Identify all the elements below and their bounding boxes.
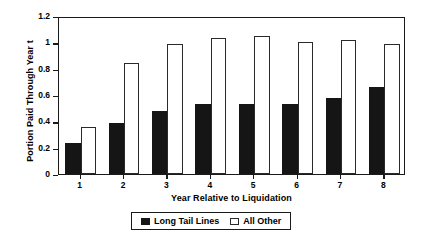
bar-long-tail-lines-year-8 [369,87,384,174]
y-axis-tick-label: 0.4 [38,116,50,126]
x-axis-tick-mark [80,175,81,179]
x-axis-tick-label-8: 8 [368,180,398,190]
x-axis-tick-label-1: 1 [65,180,95,190]
bar-long-tail-lines-year-2 [109,123,124,174]
bar-all-other-year-1 [81,127,96,174]
bar-long-tail-lines-year-6 [282,104,297,174]
y-axis-title: Portion Paid Through Year t [25,11,35,191]
legend-item-all-other: All Other [230,216,281,226]
y-axis-tick-label: 0.2 [38,143,50,153]
legend-swatch-light-icon [230,218,239,225]
legend-label-all-other: All Other [243,216,281,226]
bars-layer [59,18,404,174]
x-axis-tick-label-3: 3 [151,180,181,190]
bar-long-tail-lines-year-5 [239,104,254,174]
bar-long-tail-lines-year-1 [65,143,80,174]
bar-long-tail-lines-year-7 [326,98,341,174]
x-axis-tick-mark [297,175,298,179]
x-axis-tick-mark [383,175,384,179]
legend-swatch-dark-icon [141,218,150,225]
plot-area [58,17,405,175]
bar-long-tail-lines-year-4 [195,104,210,174]
x-axis-tick-label-5: 5 [238,180,268,190]
bar-chart-figure: Portion Paid Through Year t 00.20.40.60.… [0,0,423,238]
bar-all-other-year-4 [211,38,226,174]
x-axis-tick-mark [210,175,211,179]
chart-legend: Long Tail Lines All Other [131,212,291,230]
bar-all-other-year-7 [341,40,356,174]
x-axis-tick-mark [166,175,167,179]
bar-all-other-year-8 [384,44,399,174]
x-axis-tick-mark [340,175,341,179]
y-axis-tick-label: 1 [45,37,50,47]
x-axis-title: Year Relative to Liquidation [58,193,405,203]
bar-long-tail-lines-year-3 [152,111,167,174]
x-axis-tick-label-2: 2 [108,180,138,190]
x-axis-tick-label-7: 7 [325,180,355,190]
y-axis-tick-label: 0.6 [38,90,50,100]
y-axis-tick-label: 0.8 [38,64,50,74]
legend-item-long-tail-lines: Long Tail Lines [141,216,219,226]
legend-label-long-tail-lines: Long Tail Lines [154,216,219,226]
bar-all-other-year-5 [254,36,269,174]
y-axis-tick-label: 0 [45,169,50,179]
x-axis-tick-label-4: 4 [195,180,225,190]
x-axis-tick-mark [253,175,254,179]
x-axis-tick-label-6: 6 [282,180,312,190]
y-axis-tick-mark [53,175,58,176]
y-axis-tick-label: 1.2 [38,11,50,21]
x-axis-tick-mark [123,175,124,179]
bar-all-other-year-3 [167,44,182,174]
bar-all-other-year-2 [124,63,139,174]
bar-all-other-year-6 [298,42,313,174]
